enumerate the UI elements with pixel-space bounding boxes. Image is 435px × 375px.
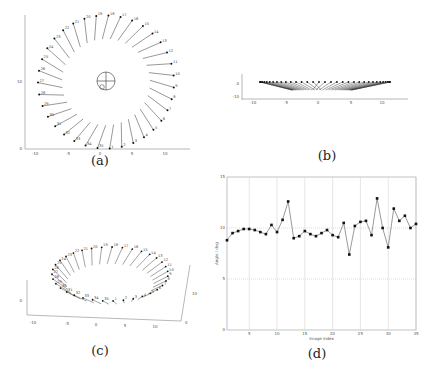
- camera-label: 3: [135, 139, 137, 143]
- camera-ray: [147, 262, 162, 273]
- camera-point: [280, 81, 282, 83]
- camera-ray: [145, 103, 162, 121]
- x-tick-label: 0: [317, 100, 320, 105]
- x-tick-label: 10: [379, 100, 385, 105]
- x-tick-label: 10: [274, 331, 280, 336]
- camera-ray: [60, 260, 71, 275]
- camera-ray: [140, 109, 153, 130]
- camera-ray: [313, 82, 319, 90]
- camera-label: 18: [113, 243, 118, 247]
- camera-ray: [93, 300, 102, 304]
- camera-label: 21: [83, 247, 88, 251]
- camera-label: 32: [66, 131, 71, 135]
- x-tick-label: 30: [386, 331, 392, 336]
- camera-ray: [150, 80, 174, 87]
- camera-ray: [115, 248, 122, 264]
- camera-ray: [143, 53, 167, 59]
- angle-chart: 5101520253035051015Image indexAngle / de…: [210, 170, 435, 345]
- data-point: [320, 232, 323, 235]
- data-point: [226, 239, 229, 242]
- camera-label: 16: [134, 245, 139, 249]
- camera-label: 31: [68, 288, 73, 292]
- camera-label: 35: [99, 144, 104, 148]
- x-tick-label: 5: [124, 323, 127, 328]
- camera-label: 8: [167, 277, 170, 281]
- data-point: [281, 219, 284, 222]
- x-tick-label: 25: [358, 331, 364, 336]
- camera-label: 33: [76, 137, 81, 141]
- camera-label: 2: [123, 143, 125, 147]
- camera-label: 25: [44, 55, 49, 59]
- y-tick-label: 10: [17, 79, 23, 84]
- x-tick-label: -10: [32, 151, 39, 156]
- camera-point: [348, 81, 350, 83]
- camera-label: 29: [44, 102, 49, 106]
- x-tick-label: 5: [131, 151, 134, 156]
- camera-label: 32: [76, 291, 81, 295]
- camera-point: [318, 81, 320, 83]
- camera-label: 22: [75, 249, 80, 253]
- camera-ray: [82, 250, 85, 267]
- camera-point: [312, 81, 314, 83]
- camera-label: 21: [75, 20, 80, 24]
- camera-label: 6: [163, 117, 166, 121]
- x-tick-label: 5: [248, 331, 251, 336]
- camera-label: 34: [94, 296, 99, 300]
- camera-label: 27: [53, 270, 58, 274]
- camera-label: 19: [103, 243, 108, 247]
- panel-b-plot: -10-505100-10: [220, 0, 435, 120]
- camera-label: 5: [155, 126, 157, 130]
- camera-point: [336, 81, 338, 83]
- camera-label: 10: [169, 268, 174, 272]
- camera-point: [358, 81, 360, 83]
- camera-label: 7: [164, 282, 166, 286]
- camera-ray: [128, 119, 133, 143]
- data-point: [398, 220, 401, 223]
- data-point: [242, 228, 245, 231]
- camera-label: 23: [56, 35, 61, 39]
- camera-label: 2: [125, 296, 127, 300]
- camera-ray: [150, 88, 172, 99]
- camera-label: 7: [169, 107, 171, 111]
- data-point: [381, 227, 384, 230]
- data-point: [409, 227, 412, 230]
- y-axis-label: Angle / deg: [214, 242, 219, 265]
- plot-frame: [227, 177, 416, 330]
- camera-label: 26: [54, 266, 59, 270]
- data-point: [231, 232, 234, 235]
- caption-a: (a): [80, 153, 120, 168]
- camera-label: 13: [158, 254, 163, 258]
- camera-label: 16: [134, 17, 139, 21]
- camera-ray: [38, 83, 62, 88]
- x-tick-label: 35: [413, 331, 419, 336]
- caption-b: (b): [307, 148, 347, 163]
- data-point: [276, 231, 279, 234]
- data-point: [253, 229, 256, 232]
- camera-label: 34: [87, 142, 92, 146]
- camera-point: [330, 81, 332, 83]
- camera-label: 22: [65, 26, 70, 30]
- camera-label: 24: [61, 257, 66, 261]
- panel-d: 5101520253035051015Image indexAngle / de…: [210, 170, 435, 375]
- camera-point: [342, 81, 344, 83]
- data-point: [259, 231, 262, 234]
- data-point: [304, 230, 307, 233]
- camera-point: [269, 81, 271, 83]
- camera-label: 11: [167, 263, 172, 267]
- camera-ray: [130, 251, 142, 266]
- camera-ray: [110, 17, 120, 39]
- camera-ray: [153, 271, 168, 280]
- camera-ray: [132, 33, 152, 47]
- y-tick-label: 15: [220, 174, 226, 179]
- camera-label: 30: [49, 113, 54, 117]
- data-point: [354, 225, 357, 228]
- data-point: [387, 246, 390, 249]
- x-tick-label: 10: [152, 324, 158, 329]
- camera-ray: [264, 82, 294, 90]
- data-point: [270, 224, 273, 227]
- data-point: [309, 233, 312, 236]
- camera-ray: [147, 64, 172, 66]
- data-point: [370, 234, 373, 237]
- y-tick-label: 0: [19, 146, 22, 151]
- camera-ray: [66, 256, 74, 272]
